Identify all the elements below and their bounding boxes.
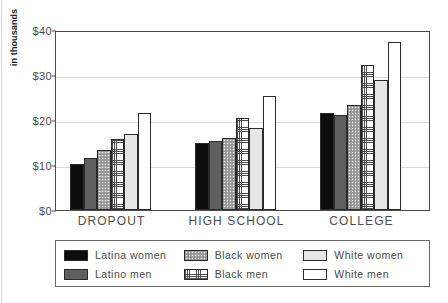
legend-label: White men (334, 268, 389, 280)
bar (209, 141, 223, 210)
y-axis-tick-label: $40 (4, 25, 52, 37)
legend-swatch (184, 269, 208, 280)
bar-group (181, 32, 306, 210)
x-axis-tick-label: DROPOUT (78, 214, 146, 228)
y-axis-tick-label: $20 (4, 115, 52, 127)
legend-item: Black men (184, 265, 304, 283)
bar-group (306, 32, 431, 210)
y-axis-tick-label: $0 (4, 205, 52, 217)
legend-item: Black women (184, 246, 304, 264)
bar (249, 128, 263, 210)
bar (111, 139, 125, 210)
legend-item: Latina women (64, 246, 184, 264)
legend-label: White women (334, 249, 403, 261)
legend-label: Latino men (95, 268, 152, 280)
legend-swatch (64, 269, 88, 280)
y-axis-tick-label: $10 (4, 160, 52, 172)
bar (97, 150, 111, 210)
legend-grid: Latina womenBlack womenWhite womenLatino… (64, 246, 423, 283)
bar-group (56, 32, 181, 210)
bar (70, 164, 84, 210)
bar (361, 65, 375, 210)
bar (320, 113, 334, 210)
legend-item: Latino men (64, 265, 184, 283)
plot-area (55, 31, 430, 211)
bar (222, 138, 236, 210)
bar (388, 42, 402, 210)
legend-swatch (184, 250, 208, 261)
bar (236, 118, 250, 210)
x-axis-labels: DROPOUTHIGH SCHOOLCOLLEGE (55, 214, 430, 232)
legend-label: Black men (215, 268, 269, 280)
bar (138, 113, 152, 210)
y-axis-labels: $0$10$20$30$40 (0, 31, 52, 211)
cropped-title-ghost (92, 0, 342, 7)
y-axis-tick-label: $30 (4, 70, 52, 82)
bar (374, 80, 388, 211)
bar (195, 143, 209, 211)
legend-swatch (64, 250, 88, 261)
bar (84, 158, 98, 210)
legend-swatch (303, 250, 327, 261)
bar (263, 96, 277, 210)
legend-item: White women (303, 246, 423, 264)
bar (124, 134, 138, 211)
x-axis-tick-label: COLLEGE (329, 214, 393, 228)
legend-label: Black women (215, 249, 283, 261)
bar (347, 105, 361, 210)
legend-swatch (303, 269, 327, 280)
legend-item: White men (303, 265, 423, 283)
legend-label: Latina women (95, 249, 166, 261)
bar (334, 115, 348, 210)
x-axis-tick-label: HIGH SCHOOL (188, 214, 284, 228)
chart-legend: Latina womenBlack womenWhite womenLatino… (55, 240, 430, 287)
